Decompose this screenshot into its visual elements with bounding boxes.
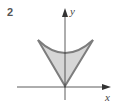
x-axis-arrow-icon <box>102 84 111 90</box>
y-axis-arrow-icon <box>62 8 68 17</box>
region-diagram <box>0 0 120 109</box>
